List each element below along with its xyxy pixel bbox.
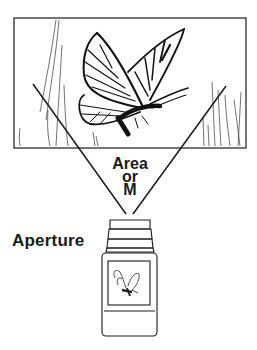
butterfly-icon — [79, 29, 188, 134]
camera-body — [102, 220, 157, 336]
area-label-line3: M — [100, 183, 160, 196]
viewfinder-butterfly-icon — [114, 270, 139, 296]
lens-barrel — [110, 220, 150, 229]
aperture-label: Aperture — [12, 231, 84, 251]
area-label: Area or M — [100, 157, 160, 196]
